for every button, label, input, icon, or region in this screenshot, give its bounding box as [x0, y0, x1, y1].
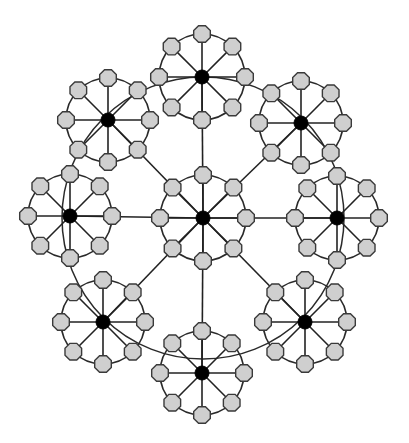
leaf-node [293, 73, 310, 90]
leaf-node [194, 26, 211, 43]
leaf-node [163, 99, 180, 116]
leaf-node [335, 115, 352, 132]
hub-node [330, 211, 344, 225]
hub-node [63, 209, 77, 223]
leaf-node [237, 69, 254, 86]
leaf-node [129, 141, 146, 158]
cluster-bottom-right [255, 272, 356, 373]
leaf-node [225, 240, 242, 257]
hub-node [195, 70, 209, 84]
cluster-top-left [58, 70, 159, 171]
leaf-node [371, 210, 388, 227]
leaf-node [62, 250, 79, 267]
hub-node [101, 113, 115, 127]
leaf-node [151, 69, 168, 86]
hub-node [294, 116, 308, 130]
leaf-node [322, 85, 339, 102]
clusters [20, 26, 388, 424]
leaf-node [91, 237, 108, 254]
leaf-node [326, 284, 343, 301]
leaf-node [194, 112, 211, 129]
leaf-node [100, 70, 117, 87]
cluster-left [20, 166, 121, 267]
leaf-node [194, 323, 211, 340]
leaf-node [322, 144, 339, 161]
leaf-node [297, 272, 314, 289]
hub-node [96, 315, 110, 329]
leaf-node [358, 239, 375, 256]
leaf-node [299, 239, 316, 256]
leaf-node [164, 335, 181, 352]
hub-node [298, 315, 312, 329]
leaf-node [124, 343, 141, 360]
leaf-node [62, 166, 79, 183]
leaf-node [124, 284, 141, 301]
leaf-node [329, 168, 346, 185]
leaf-node [95, 272, 112, 289]
leaf-node [223, 335, 240, 352]
leaf-node [20, 208, 37, 225]
leaf-node [195, 253, 212, 270]
leaf-node [91, 178, 108, 195]
cluster-center [152, 167, 255, 270]
leaf-node [358, 180, 375, 197]
leaf-node [267, 343, 284, 360]
leaf-node [224, 99, 241, 116]
leaf-node [58, 112, 75, 129]
leaf-node [137, 314, 154, 331]
leaf-node [65, 343, 82, 360]
leaf-node [152, 365, 169, 382]
leaf-node [236, 365, 253, 382]
leaf-node [100, 154, 117, 171]
hub-node [196, 211, 210, 225]
leaf-node [53, 314, 70, 331]
leaf-node [129, 82, 146, 99]
leaf-node [142, 112, 159, 129]
leaf-node [326, 343, 343, 360]
leaf-node [152, 210, 169, 227]
leaf-node [223, 394, 240, 411]
cluster-bottom [152, 323, 253, 424]
leaf-node [104, 208, 121, 225]
leaf-node [32, 237, 49, 254]
leaf-node [329, 252, 346, 269]
leaf-node [297, 356, 314, 373]
leaf-node [70, 141, 87, 158]
leaf-node [164, 394, 181, 411]
leaf-node [194, 407, 211, 424]
leaf-node [263, 144, 280, 161]
leaf-node [163, 38, 180, 55]
hub-node [195, 366, 209, 380]
leaf-node [65, 284, 82, 301]
cluster-top [151, 26, 254, 129]
leaf-node [287, 210, 304, 227]
leaf-node [224, 38, 241, 55]
leaf-node [293, 157, 310, 174]
leaf-node [225, 179, 242, 196]
leaf-node [95, 356, 112, 373]
leaf-node [164, 179, 181, 196]
leaf-node [255, 314, 272, 331]
leaf-node [32, 178, 49, 195]
leaf-node [339, 314, 356, 331]
leaf-node [263, 85, 280, 102]
leaf-node [164, 240, 181, 257]
leaf-node [70, 82, 87, 99]
cluster-top-right [251, 73, 352, 174]
leaf-node [299, 180, 316, 197]
cluster-bottom-left [53, 272, 154, 373]
leaf-node [251, 115, 268, 132]
network-diagram [0, 0, 409, 443]
leaf-node [267, 284, 284, 301]
leaf-node [238, 210, 255, 227]
leaf-node [195, 167, 212, 184]
cluster-right [287, 168, 388, 269]
